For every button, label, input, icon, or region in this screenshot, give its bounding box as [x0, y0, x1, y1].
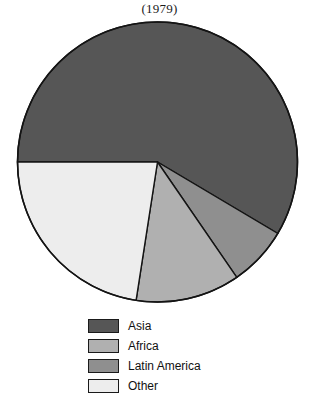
legend-item-other[interactable]: Other	[88, 376, 248, 395]
legend-swatch-africa	[88, 339, 119, 353]
chart-legend: Asia Africa Latin America Other	[88, 316, 248, 396]
legend-item-asia[interactable]: Asia	[88, 316, 248, 335]
pie-slice-group	[18, 22, 298, 302]
pie-svg	[0, 0, 319, 312]
legend-item-africa[interactable]: Africa	[88, 336, 248, 355]
legend-swatch-asia	[88, 319, 119, 333]
legend-swatch-latin-america	[88, 359, 119, 373]
legend-label-other: Other	[128, 379, 158, 393]
legend-swatch-other	[88, 379, 119, 393]
pie-plot-area	[0, 0, 319, 312]
pie-chart-figure: (1979) Asia Africa Latin America Other	[0, 0, 319, 402]
legend-label-asia: Asia	[128, 319, 151, 333]
legend-label-africa: Africa	[128, 339, 159, 353]
legend-label-latin-america: Latin America	[128, 359, 201, 373]
legend-item-latin-america[interactable]: Latin America	[88, 356, 248, 375]
pie-slice-other[interactable]	[18, 162, 158, 300]
